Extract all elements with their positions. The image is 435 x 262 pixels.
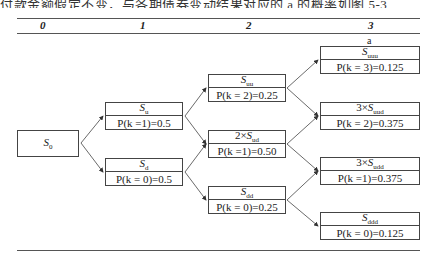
- node-suu-probability: P(k = 2)=0.25: [209, 88, 285, 101]
- node-su: Su P(k =1)=0.5: [105, 102, 183, 130]
- node-sd: Sd P(k = 0)=0.5: [105, 158, 183, 186]
- node-sud: 2×Sud P(k =1)=0.50: [208, 130, 286, 158]
- node-sudd-probability: P(k =1)=0.375: [321, 171, 419, 184]
- node-sddd: Sddd P(k = 0)=0.125: [320, 212, 420, 240]
- node-sddd-label: Sddd: [362, 211, 378, 226]
- node-suu: Suu P(k = 2)=0.25: [208, 74, 286, 102]
- node-suu-label: Suu: [241, 73, 254, 88]
- node-sudd: 3×Sudd P(k =1)=0.375: [320, 157, 420, 185]
- node-s0: S0: [17, 130, 79, 157]
- node-sud-label: 2×Sud: [235, 129, 259, 144]
- node-sdd-label: Sdd: [241, 185, 254, 200]
- node-suuu: Suuu P(k = 3)=0.125: [320, 46, 420, 74]
- node-suud: 3×Suud P(k = 2)=0.375: [320, 102, 420, 130]
- node-sd-label: Sd: [140, 157, 149, 172]
- node-sdd: Sdd P(k = 0)=0.25: [208, 186, 286, 214]
- node-suud-label: 3×Suud: [356, 101, 384, 116]
- node-sd-probability: P(k = 0)=0.5: [106, 172, 182, 185]
- node-su-label: Su: [140, 101, 149, 116]
- node-sddd-probability: P(k = 0)=0.125: [321, 226, 419, 239]
- node-sudd-label: 3×Sudd: [356, 156, 384, 171]
- node-su-probability: P(k =1)=0.5: [106, 116, 182, 129]
- node-s0-label: S0: [44, 136, 53, 151]
- node-suud-probability: P(k = 2)=0.375: [321, 116, 419, 129]
- node-suuu-label: Suuu: [362, 45, 378, 60]
- node-suuu-probability: P(k = 3)=0.125: [321, 60, 419, 73]
- node-sud-probability: P(k =1)=0.50: [209, 144, 285, 157]
- node-sdd-probability: P(k = 0)=0.25: [209, 200, 285, 213]
